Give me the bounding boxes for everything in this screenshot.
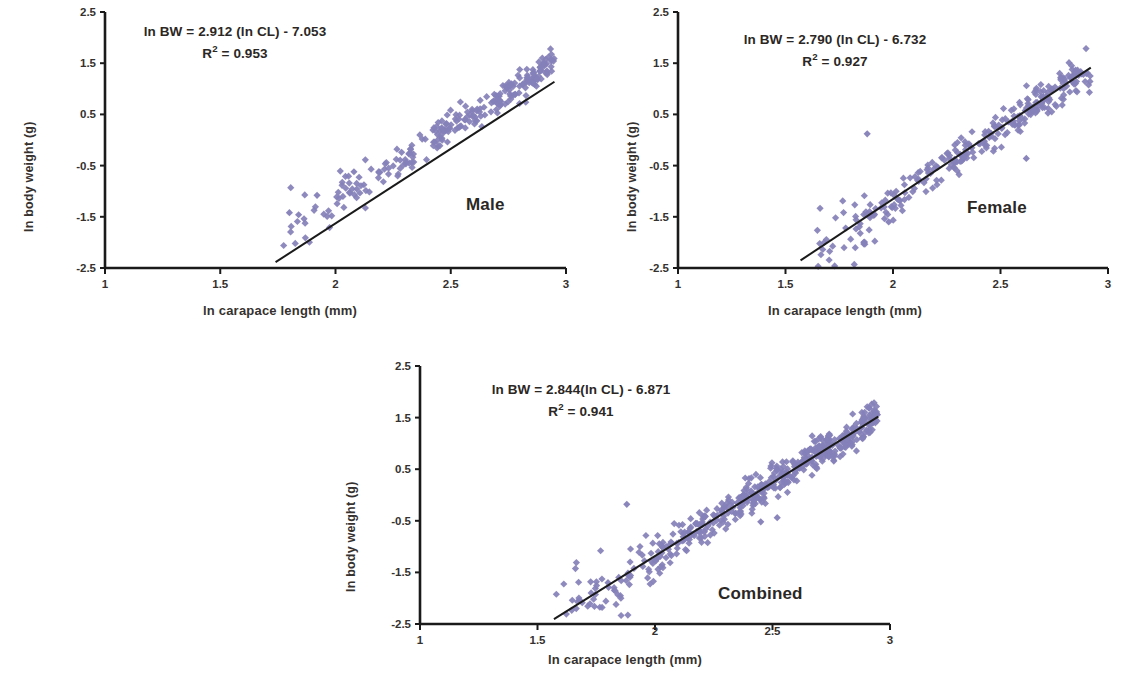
equation-line: ln BW = 2.844(ln CL) - 6.871	[492, 382, 671, 397]
svg-text:0.5: 0.5	[80, 108, 97, 120]
svg-text:-1.5: -1.5	[649, 211, 669, 223]
svg-text:1.5: 1.5	[653, 57, 670, 69]
equation-line: ln BW = 2.790 (ln CL) - 6.732	[744, 32, 927, 47]
svg-text:2.5: 2.5	[653, 6, 670, 18]
svg-text:-1.5: -1.5	[391, 566, 411, 578]
svg-text:2.5: 2.5	[80, 6, 97, 18]
svg-text:3: 3	[1105, 278, 1111, 290]
panel-male: ln body weight (g) -2.5-1.5-0.50.51.52.5…	[0, 0, 580, 330]
svg-text:-0.5: -0.5	[391, 515, 411, 527]
svg-text:-0.5: -0.5	[76, 160, 96, 172]
svg-text:2.5: 2.5	[443, 278, 460, 290]
x-axis-title: ln carapace length (mm)	[203, 303, 357, 318]
svg-text:2.5: 2.5	[395, 360, 412, 372]
x-axis-title: ln carapace length (mm)	[768, 303, 922, 318]
svg-text:3: 3	[887, 634, 893, 644]
svg-text:1.5: 1.5	[530, 634, 547, 644]
svg-text:-2.5: -2.5	[649, 262, 669, 274]
svg-text:0.5: 0.5	[653, 108, 670, 120]
group-label-female: Female	[967, 198, 1027, 218]
svg-text:1.5: 1.5	[395, 412, 412, 424]
group-label-combined: Combined	[718, 584, 803, 604]
svg-text:1: 1	[102, 278, 109, 290]
svg-text:1: 1	[417, 634, 424, 644]
svg-text:1.5: 1.5	[212, 278, 229, 290]
r-squared-line: R2 = 0.927	[705, 50, 965, 71]
equation-line: ln BW = 2.912 (ln CL) - 7.053	[144, 24, 327, 39]
svg-text:1.5: 1.5	[778, 278, 795, 290]
y-axis-title: ln body weight (g)	[625, 121, 639, 232]
svg-text:-2.5: -2.5	[76, 262, 96, 274]
svg-text:2.5: 2.5	[765, 625, 782, 637]
y-axis-title: ln body weight (g)	[344, 481, 358, 592]
equation-female: ln BW = 2.790 (ln CL) - 6.732 R2 = 0.927	[705, 30, 965, 71]
svg-text:-0.5: -0.5	[649, 160, 669, 172]
svg-text:3: 3	[563, 278, 569, 290]
r-squared-line: R2 = 0.941	[446, 400, 716, 421]
svg-text:-1.5: -1.5	[76, 211, 96, 223]
group-label-male: Male	[466, 195, 505, 215]
r-squared-line: R2 = 0.953	[110, 42, 360, 63]
panel-female: ln body weight (g) -2.5-1.5-0.50.51.52.5…	[600, 0, 1130, 330]
svg-text:2: 2	[332, 278, 338, 290]
panel-combined: ln body weight (g) -2.5-1.5-0.50.51.52.5…	[330, 352, 950, 676]
x-axis-title: ln carapace length (mm)	[548, 652, 702, 667]
svg-text:1: 1	[675, 278, 682, 290]
svg-text:1.5: 1.5	[80, 57, 97, 69]
equation-male: ln BW = 2.912 (ln CL) - 7.053 R2 = 0.953	[110, 22, 360, 63]
equation-combined: ln BW = 2.844(ln CL) - 6.871 R2 = 0.941	[446, 380, 716, 421]
svg-text:0.5: 0.5	[395, 463, 412, 475]
svg-text:-2.5: -2.5	[391, 618, 411, 630]
svg-text:2: 2	[890, 278, 896, 290]
svg-text:2.5: 2.5	[993, 278, 1010, 290]
y-axis-title: ln body weight (g)	[22, 121, 36, 232]
svg-text:2: 2	[652, 625, 658, 637]
